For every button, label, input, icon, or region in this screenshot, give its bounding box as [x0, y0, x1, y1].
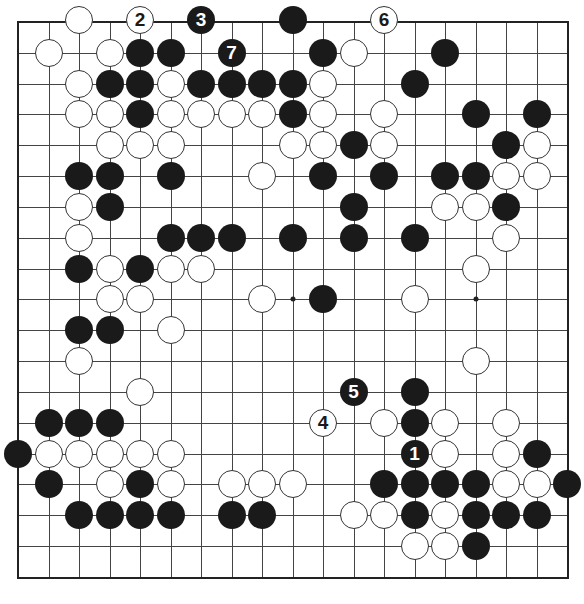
- white-stone: [523, 131, 551, 159]
- white-stone: [492, 440, 520, 468]
- black-stone: [309, 39, 337, 67]
- white-stone: [35, 39, 63, 67]
- white-stone: [248, 100, 276, 128]
- black-stone: [96, 162, 124, 190]
- white-stone: [309, 70, 337, 98]
- black-stone: [340, 193, 368, 221]
- black-stone: [462, 501, 490, 529]
- star-point: [290, 297, 295, 302]
- black-stone: [65, 316, 93, 344]
- black-stone: [401, 501, 429, 529]
- black-stone: [523, 100, 551, 128]
- black-stone: [279, 70, 307, 98]
- black-stone: [401, 378, 429, 406]
- white-stone: [96, 285, 124, 313]
- white-stone: [187, 255, 215, 283]
- black-stone: [431, 39, 459, 67]
- white-stone: [96, 255, 124, 283]
- black-stone: [523, 440, 551, 468]
- black-stone: [370, 162, 398, 190]
- white-stone: [309, 131, 337, 159]
- black-stone: [431, 470, 459, 498]
- white-stone-move-2: 2: [126, 6, 154, 34]
- white-stone: [370, 100, 398, 128]
- white-stone: [279, 470, 307, 498]
- white-stone: [401, 532, 429, 560]
- black-stone: [126, 470, 154, 498]
- white-stone: [523, 470, 551, 498]
- white-stone: [248, 285, 276, 313]
- white-stone: [65, 224, 93, 252]
- black-stone: [157, 224, 185, 252]
- white-stone: [370, 409, 398, 437]
- black-stone: [96, 409, 124, 437]
- black-stone: [35, 409, 63, 437]
- white-stone: [65, 440, 93, 468]
- white-stone: [431, 532, 459, 560]
- black-stone: [340, 224, 368, 252]
- white-stone: [96, 39, 124, 67]
- white-stone: [218, 100, 246, 128]
- white-stone: [157, 70, 185, 98]
- white-stone: [492, 224, 520, 252]
- black-stone: [370, 470, 398, 498]
- white-stone: [187, 100, 215, 128]
- black-stone: [462, 162, 490, 190]
- black-stone: [309, 162, 337, 190]
- black-stone: [65, 501, 93, 529]
- white-stone: [370, 501, 398, 529]
- white-stone: [218, 470, 246, 498]
- white-stone: [309, 100, 337, 128]
- white-stone: [248, 162, 276, 190]
- black-stone: [96, 193, 124, 221]
- white-stone: [65, 193, 93, 221]
- white-stone: [492, 162, 520, 190]
- black-stone: [462, 100, 490, 128]
- black-stone: [126, 501, 154, 529]
- white-stone: [65, 347, 93, 375]
- white-stone: [401, 285, 429, 313]
- black-stone: [492, 193, 520, 221]
- black-stone: [65, 409, 93, 437]
- black-stone: [96, 316, 124, 344]
- white-stone: [492, 470, 520, 498]
- black-stone: [492, 131, 520, 159]
- black-stone: [157, 39, 185, 67]
- white-stone: [126, 285, 154, 313]
- white-stone: [431, 409, 459, 437]
- white-stone: [65, 100, 93, 128]
- black-stone: [126, 39, 154, 67]
- white-stone: [340, 501, 368, 529]
- white-stone: [431, 501, 459, 529]
- black-stone: [401, 224, 429, 252]
- black-stone: [65, 255, 93, 283]
- black-stone: [492, 501, 520, 529]
- white-stone: [279, 131, 307, 159]
- black-stone: [401, 409, 429, 437]
- black-stone: [218, 70, 246, 98]
- black-stone: [126, 100, 154, 128]
- black-stone-move-5: 5: [340, 378, 368, 406]
- white-stone-move-4: 4: [309, 409, 337, 437]
- white-stone: [370, 131, 398, 159]
- black-stone: [340, 131, 368, 159]
- black-stone: [96, 70, 124, 98]
- black-stone-move-1: 1: [401, 440, 429, 468]
- star-point: [473, 297, 478, 302]
- go-board: 2367541: [0, 0, 584, 604]
- white-stone: [248, 470, 276, 498]
- black-stone: [218, 501, 246, 529]
- black-stone: [523, 501, 551, 529]
- white-stone: [126, 378, 154, 406]
- white-stone: [431, 193, 459, 221]
- black-stone: [157, 501, 185, 529]
- white-stone: [126, 440, 154, 468]
- black-stone: [126, 70, 154, 98]
- white-stone: [157, 255, 185, 283]
- black-stone-move-7: 7: [218, 39, 246, 67]
- black-stone: [157, 162, 185, 190]
- black-stone: [462, 470, 490, 498]
- black-stone: [279, 224, 307, 252]
- white-stone: [157, 316, 185, 344]
- white-stone: [523, 162, 551, 190]
